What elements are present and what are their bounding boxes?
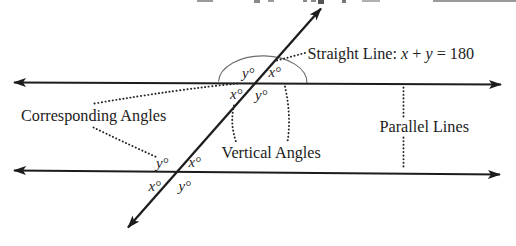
angle-top-below-left: x°	[229, 86, 243, 102]
top-parallel-line	[14, 83, 501, 85]
straight-line-plus: +	[408, 45, 425, 63]
straight-line-label: Straight Line: x + y = 180	[308, 45, 475, 63]
angle-bottom-above-left: y°	[154, 155, 169, 171]
corresponding-angles-label: Corresponding Angles	[21, 107, 166, 125]
angle-top-above-right: x°	[268, 64, 282, 80]
vertical-angles-left-leader	[232, 106, 236, 144]
bottom-parallel-line	[14, 171, 500, 175]
angle-bottom-below-left: x°	[148, 178, 162, 194]
straight-line-equals: = 180	[433, 45, 475, 63]
angle-top-above-left: y°	[240, 65, 255, 81]
angle-bottom-above-right: x°	[188, 154, 202, 170]
straight-line-prefix: Straight Line:	[308, 45, 402, 63]
cropped-text-fragments	[197, 0, 516, 4]
corresponding-angles-upper-leader	[95, 84, 239, 104]
angle-top-below-right: y°	[253, 87, 268, 103]
corresponding-angles-lower-leader	[94, 128, 159, 159]
vertical-angles-right-leader	[285, 87, 289, 143]
angle-bottom-below-right: y°	[177, 178, 192, 194]
diagram-canvas: Straight Line: x + y = 180 Corresponding…	[0, 0, 516, 246]
straight-angle-arc	[219, 56, 308, 84]
vertical-angles-label: Vertical Angles	[222, 144, 321, 162]
geometry-diagram: Straight Line: x + y = 180 Corresponding…	[0, 0, 516, 246]
parallel-lines-label: Parallel Lines	[380, 118, 469, 136]
